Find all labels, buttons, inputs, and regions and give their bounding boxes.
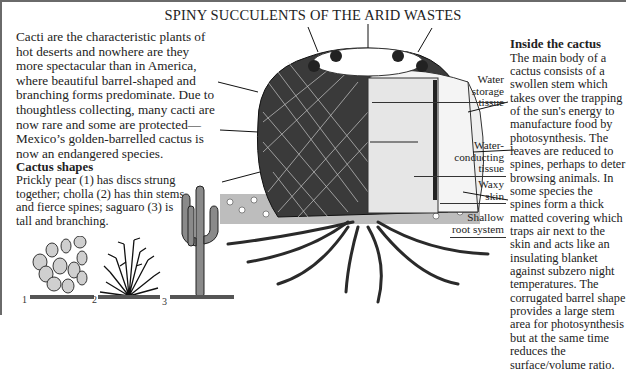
cactus-shapes-heading: Cactus shapes bbox=[16, 160, 186, 174]
intro-paragraph: Cacti are the characteristic plants of h… bbox=[16, 30, 216, 161]
leader-line-water-conducting bbox=[414, 176, 506, 177]
cactus-shapes-text: Prickly pear (1) has discs strung togeth… bbox=[16, 174, 186, 228]
figure-number-1: 1 bbox=[22, 294, 27, 305]
label-shallow-root-system: Shallow root system bbox=[440, 212, 504, 235]
inside-the-cactus-heading: Inside the cactus bbox=[510, 38, 626, 52]
cactus-shapes-section: Cactus shapes Prickly pear (1) has discs… bbox=[16, 160, 186, 228]
label-water-conducting-tissue: Water- conducting tissue bbox=[430, 140, 504, 175]
inside-the-cactus-text: The main body of a cactus consists of a … bbox=[510, 52, 626, 372]
leader-line-root-system bbox=[450, 237, 506, 238]
inside-the-cactus-section: Inside the cactus The main body of a cac… bbox=[510, 38, 626, 372]
label-water-storage-tissue: Water storage tissue bbox=[440, 74, 504, 109]
figure-number-2: 2 bbox=[92, 294, 97, 305]
figure-number-3: 3 bbox=[162, 296, 167, 307]
leader-line-water-storage bbox=[372, 102, 506, 103]
label-waxy-skin: Waxy skin bbox=[450, 179, 504, 202]
leader-line-waxy-skin bbox=[440, 203, 506, 204]
cholla-illustration bbox=[96, 236, 162, 304]
prickly-pear-illustration bbox=[26, 236, 96, 304]
